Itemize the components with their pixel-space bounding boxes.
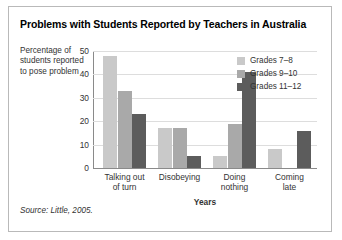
x-axis-tick-label: Doing nothing xyxy=(207,173,262,192)
y-axis-tick-label: 0 xyxy=(84,163,89,173)
page-title: Problems with Students Reported by Teach… xyxy=(20,18,306,30)
legend-swatch-icon xyxy=(237,83,245,91)
legend-item: Grades 7–8 xyxy=(237,55,301,66)
bar-group: Disobeying xyxy=(152,51,207,168)
y-axis-tick-label: 10 xyxy=(80,140,89,150)
y-axis-tick-label: 50 xyxy=(80,46,89,56)
y-axis-tick-label: 40 xyxy=(80,69,89,79)
chart-figure: Problems with Students Reported by Teach… xyxy=(8,6,332,232)
legend-swatch-icon xyxy=(237,70,245,78)
y-axis-tick-label: 20 xyxy=(80,116,89,126)
bar-group: Talking out of turn xyxy=(97,51,152,168)
bar xyxy=(187,156,201,168)
x-axis-label: Years xyxy=(93,197,317,207)
bar xyxy=(228,124,242,168)
bar xyxy=(297,131,311,168)
bar xyxy=(132,114,146,168)
bar xyxy=(158,128,172,168)
legend-label: Grades 7–8 xyxy=(250,56,293,65)
legend-swatch-icon xyxy=(237,57,245,65)
bar xyxy=(268,149,282,168)
x-axis-line xyxy=(93,168,317,169)
legend-item: Grades 9–10 xyxy=(237,68,301,79)
bar xyxy=(173,128,187,168)
bar xyxy=(213,156,227,168)
bar xyxy=(118,91,132,168)
y-axis-line xyxy=(93,51,94,168)
legend-label: Grades 11–12 xyxy=(250,82,301,91)
y-axis-tick-label: 30 xyxy=(80,93,89,103)
bar xyxy=(103,56,117,168)
source-note: Source: Little, 2005. xyxy=(20,206,93,215)
y-axis-label: Percentage of students reported to pose … xyxy=(20,46,86,77)
legend-item: Grades 11–12 xyxy=(237,81,301,92)
legend-label: Grades 9–10 xyxy=(250,69,297,78)
legend: Grades 7–8Grades 9–10Grades 11–12 xyxy=(237,55,301,94)
x-axis-tick-label: Coming late xyxy=(262,173,317,192)
x-axis-tick-label: Talking out of turn xyxy=(97,173,152,192)
x-axis-tick-label: Disobeying xyxy=(152,173,207,183)
